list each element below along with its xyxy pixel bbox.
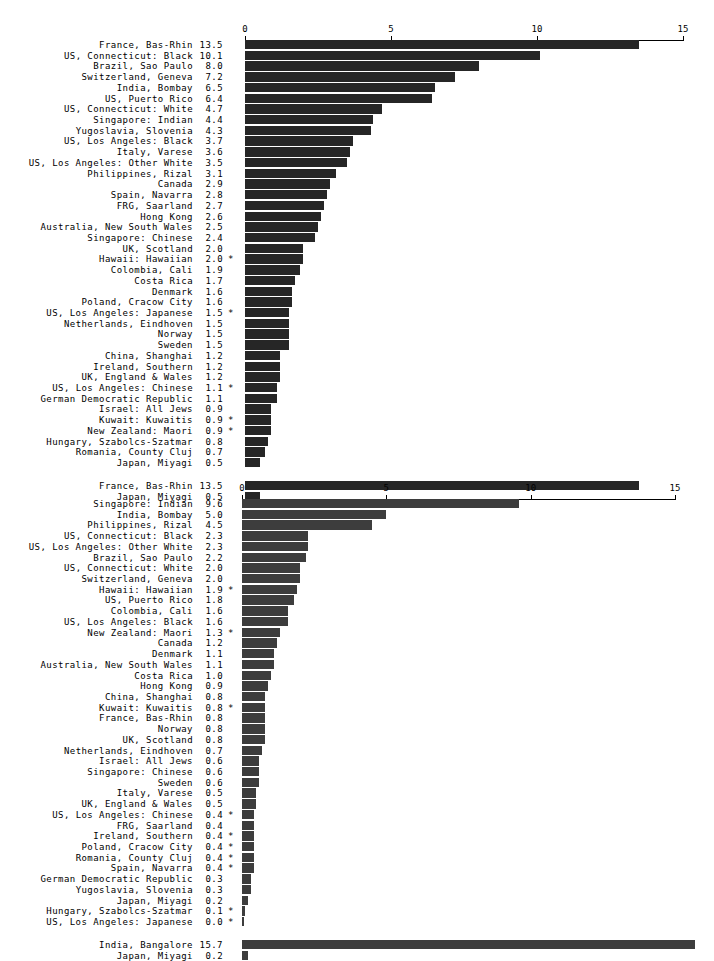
bar [245, 383, 277, 392]
row-value-label: 1.1 [195, 650, 223, 659]
bar-row: Switzerland, Geneva2.0 [0, 574, 714, 585]
row-value-label: 4.4 [195, 116, 223, 125]
bar [245, 351, 280, 360]
row-value-label: 7.2 [195, 73, 223, 82]
bar-row: New Zealand: Maori0.9* [0, 426, 714, 437]
row-category-label: Philippines, Rizal [0, 170, 193, 179]
footnote-asterisk: * [228, 629, 238, 638]
bar [242, 595, 294, 604]
row-category-label: US, Connecticut: Black [0, 532, 193, 541]
bar-row: Colombia, Cali1.6 [0, 606, 714, 617]
row-value-label: 8.0 [195, 62, 223, 71]
row-category-label: Spain, Navarra [0, 191, 193, 200]
bar-row: Romania, County Cluj0.7 [0, 447, 714, 458]
bar-row: Singapore: Chinese2.4 [0, 233, 714, 244]
row-category-label: German Democratic Republic [0, 395, 193, 404]
bar [245, 308, 289, 317]
bar [242, 940, 695, 949]
row-category-label: Hungary, Szabolcs-Szatmar [0, 438, 193, 447]
bar [245, 40, 639, 49]
row-category-label: Israel: All Jews [0, 405, 193, 414]
bar-row: Italy, Varese3.6 [0, 147, 714, 158]
footnote-asterisk: * [228, 832, 238, 841]
bar [242, 510, 386, 519]
row-value-label: 1.6 [195, 288, 223, 297]
bar-row: Hawaii: Hawaiian2.0* [0, 254, 714, 265]
bar-row: Hong Kong0.9 [0, 681, 714, 692]
row-value-label: 2.8 [195, 191, 223, 200]
row-value-label: 1.9 [195, 586, 223, 595]
row-value-label: 1.5 [195, 309, 223, 318]
row-category-label: US, Connecticut: White [0, 564, 193, 573]
bar-row: Poland, Cracow City1.6 [0, 297, 714, 308]
row-value-label: 2.3 [195, 543, 223, 552]
bar-row: US, Los Angeles: Other White3.5 [0, 158, 714, 169]
row-category-label: Kuwait: Kuwaitis [0, 416, 193, 425]
bar [242, 553, 306, 562]
row-value-label: 0.8 [195, 704, 223, 713]
chart-panel-top: 051015France, Bas-Rhin13.5US, Connecticu… [0, 0, 714, 480]
bar-row: Canada1.2 [0, 638, 714, 649]
row-value-label: 0.0 [195, 918, 223, 927]
bar-row: Costa Rica1.0 [0, 671, 714, 682]
x-axis: 051015 [242, 486, 675, 500]
row-value-label: 0.4 [195, 822, 223, 831]
axis-tick-label: 15 [678, 25, 689, 34]
axis-tick-label: 15 [670, 484, 681, 493]
row-value-label: 1.6 [195, 618, 223, 627]
row-value-label: 1.8 [195, 596, 223, 605]
bar-row: Costa Rica1.7 [0, 276, 714, 287]
row-value-label: 6.5 [195, 84, 223, 93]
bar [245, 287, 292, 296]
bar-row: Hawaii: Hawaiian1.9* [0, 585, 714, 596]
bar [242, 628, 280, 637]
row-category-label: Switzerland, Geneva [0, 575, 193, 584]
row-category-label: China, Shanghai [0, 693, 193, 702]
row-category-label: UK, England & Wales [0, 800, 193, 809]
row-value-label: 9.6 [195, 500, 223, 509]
bar-row: Spain, Navarra0.4* [0, 863, 714, 874]
row-value-label: 0.7 [195, 747, 223, 756]
row-value-label: 3.5 [195, 159, 223, 168]
footnote-asterisk: * [228, 416, 238, 425]
row-category-label: Japan, Miyagi [0, 897, 193, 906]
bar [245, 254, 303, 263]
row-category-label: UK, Scotland [0, 245, 193, 254]
row-value-label: 0.4 [195, 811, 223, 820]
row-category-label: US, Los Angeles: Other White [0, 159, 193, 168]
row-category-label: US, Puerto Rico [0, 596, 193, 605]
bar-row: Kuwait: Kuwaitis0.8* [0, 703, 714, 714]
row-value-label: 0.4 [195, 843, 223, 852]
row-category-label: Norway [0, 330, 193, 339]
row-value-label: 4.7 [195, 105, 223, 114]
row-category-label: Hawaii: Hawaiian [0, 255, 193, 264]
bar [242, 735, 265, 744]
bar [242, 638, 277, 647]
bar-row: US, Los Angeles: Japanese1.5* [0, 308, 714, 319]
bar-row: US, Connecticut: Black2.3 [0, 531, 714, 542]
row-value-label: 1.1 [195, 384, 223, 393]
row-value-label: 1.2 [195, 373, 223, 382]
bar [242, 821, 254, 830]
row-value-label: 2.0 [195, 245, 223, 254]
bar [242, 951, 248, 960]
bar-row: Sweden0.6 [0, 778, 714, 789]
bar [245, 115, 373, 124]
bar [242, 724, 265, 733]
bar [245, 94, 432, 103]
row-value-label: 1.7 [195, 277, 223, 286]
row-value-label: 1.2 [195, 639, 223, 648]
bar [242, 799, 256, 808]
row-category-label: Israel: All Jews [0, 757, 193, 766]
bar-row: China, Shanghai1.2 [0, 351, 714, 362]
bar-row: UK, England & Wales1.2 [0, 372, 714, 383]
axis-tick-label: 10 [532, 25, 543, 34]
bar [245, 212, 321, 221]
row-value-label: 2.0 [195, 575, 223, 584]
bar [245, 179, 330, 188]
bar [242, 788, 256, 797]
row-category-label: Denmark [0, 650, 193, 659]
x-axis: 051015 [245, 27, 683, 41]
bar-row: Yugoslavia, Slovenia4.3 [0, 126, 714, 137]
bar-row: Netherlands, Eindhoven0.7 [0, 746, 714, 757]
